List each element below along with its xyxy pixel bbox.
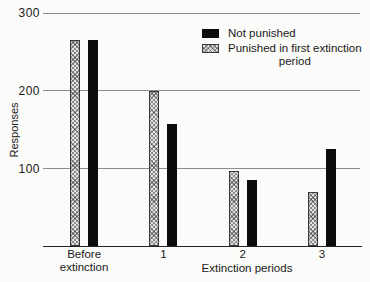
legend-item-not-punished: Not punished: [202, 27, 362, 40]
x-tick-label-3: 3: [287, 248, 357, 261]
bar-chart-figure: Responses 100200300Before extinction123 …: [0, 0, 370, 282]
y-tick-label-300: 300: [6, 7, 40, 19]
x-tick-label-1: 1: [128, 248, 198, 261]
legend-label-punished-line2: period: [228, 55, 362, 68]
bar-solid-before-extinction: [88, 40, 98, 246]
bar-solid-3: [326, 149, 336, 246]
bar-hatched-3: [308, 192, 318, 246]
bar-hatched-1: [149, 91, 159, 247]
y-tick-label-100: 100: [6, 163, 40, 175]
x-axis-title: Extinction periods: [167, 262, 327, 275]
bar-solid-2: [247, 180, 257, 246]
legend-label-not-punished: Not punished: [228, 27, 296, 39]
bar-hatched-2: [229, 171, 239, 246]
x-tick-label-2: 2: [208, 248, 278, 261]
legend-item-punished: Punished in first extinction period: [202, 42, 362, 68]
legend: Not punished Punished in first extinctio…: [202, 27, 362, 68]
legend-swatch-hatched: [202, 44, 219, 53]
legend-label-punished-line1: Punished in first extinction: [228, 42, 362, 55]
gridline-300: [43, 13, 360, 14]
bar-hatched-before-extinction: [70, 40, 80, 246]
x-tick-label-before-extinction: Before extinction: [49, 248, 119, 274]
y-tick-label-200: 200: [6, 85, 40, 97]
bar-solid-1: [167, 124, 177, 246]
legend-swatch-solid-black: [202, 29, 219, 38]
